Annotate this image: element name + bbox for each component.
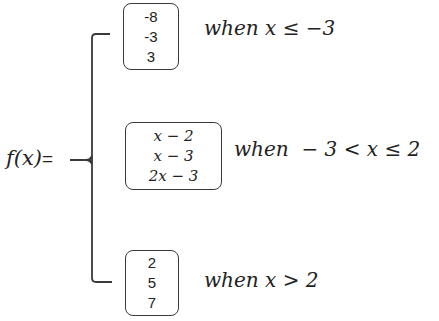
- case-3-value: 2: [148, 253, 156, 273]
- piecewise-diagram: f(x)= -8 -3 3 when x ≤ −3 x − 2 x − 3 2x…: [0, 0, 439, 321]
- function-name: f(x): [6, 146, 42, 170]
- case-3-value: 7: [148, 293, 156, 313]
- case-2-values-box: x − 2 x − 3 2x − 3: [125, 122, 222, 190]
- case-3-value: 5: [148, 273, 156, 293]
- case-2-value: x − 3: [153, 146, 193, 166]
- case-1-condition: when x ≤ −3: [204, 16, 335, 40]
- brace-middle-tick: [70, 156, 92, 164]
- case-3-values-box: 2 5 7: [125, 250, 179, 316]
- function-label: f(x)=: [6, 146, 53, 170]
- case-2-value: 2x − 3: [149, 166, 199, 186]
- case-2-condition: when − 3 < x ≤ 2: [234, 137, 420, 161]
- case-1-value: 3: [147, 47, 155, 67]
- case-3-condition: when x > 2: [204, 268, 319, 292]
- case-1-value: -8: [144, 7, 157, 27]
- case-1-value: -3: [144, 27, 157, 47]
- equals-sign: =: [42, 148, 53, 169]
- brace-vertical: [92, 34, 112, 282]
- case-1-values-box: -8 -3 3: [123, 3, 179, 70]
- case-2-value: x − 2: [153, 126, 193, 146]
